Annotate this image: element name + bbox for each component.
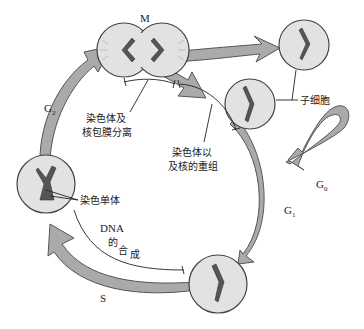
phase-g1-label: G1	[284, 204, 296, 219]
phase-m-label: M	[140, 12, 150, 24]
phase-s-label: S	[100, 292, 106, 304]
phase-g0-label: G0	[316, 178, 328, 193]
reorganization-label-2: 及核的重组	[168, 160, 218, 172]
dna-label-he: 合	[118, 244, 128, 256]
cell-cycle-diagram: M G2 G0 G1 S 子细胞 染色体及 核包膜分离 染色体以 及核的重组 染…	[0, 0, 364, 329]
reorganization-label-1: 染色体以	[172, 146, 212, 158]
separation-label-1: 染色体及	[86, 112, 126, 124]
dna-label-cheng: 成	[130, 249, 140, 260]
g0-loop-arrow	[286, 106, 349, 170]
dna-label: DNA	[100, 222, 124, 234]
separation-label-2: 核包膜分离	[82, 126, 132, 138]
dna-synthesis-arc	[74, 210, 184, 274]
g1-cell	[189, 255, 247, 313]
mitotic-cell	[97, 23, 189, 77]
g2-cell	[17, 155, 75, 213]
separation-bracket	[124, 78, 175, 112]
daughter-cell-top	[279, 20, 329, 70]
daughter-cells-label: 子细胞	[300, 94, 330, 106]
daughter-cell-pointer	[276, 70, 298, 100]
dna-label-de: 的	[108, 236, 118, 248]
chromatids-label: 染色单体	[80, 194, 120, 206]
s-arrow	[48, 224, 196, 293]
g1-arrow	[230, 118, 264, 264]
